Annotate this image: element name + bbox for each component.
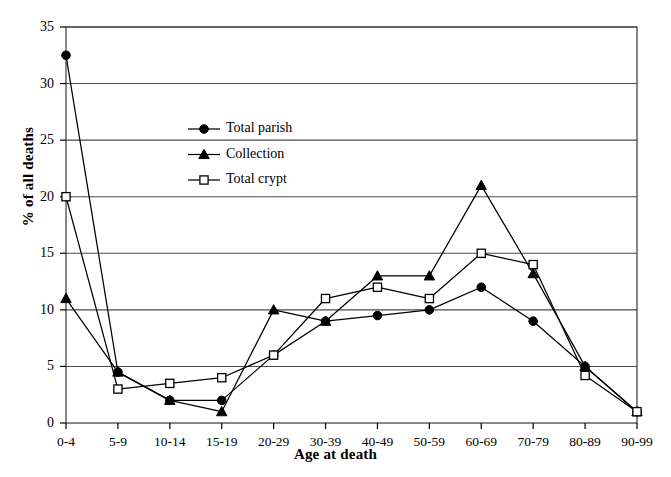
legend-item-2: Collection [226,146,284,162]
plot-frame [66,27,637,423]
y-tick-label: 5 [14,358,54,374]
chart-canvas [0,0,671,477]
y-axis-ticks [60,27,66,423]
legend-symbols [188,125,220,184]
y-tick-label: 20 [14,189,54,205]
data-series [61,51,642,416]
y-tick-label: 35 [14,19,54,35]
y-tick-label: 25 [14,132,54,148]
chart-figure: % of all deaths Age at death 05101520253… [0,0,671,477]
legend-item-1: Total parish [226,120,292,136]
y-tick-label: 15 [14,245,54,261]
y-tick-label: 0 [14,415,54,431]
gridlines [66,27,637,366]
x-axis-ticks [66,423,637,429]
y-tick-label: 10 [14,302,54,318]
x-tick-label: 90-99 [602,434,671,450]
y-tick-label: 30 [14,76,54,92]
legend-item-3: Total crypt [226,171,287,187]
